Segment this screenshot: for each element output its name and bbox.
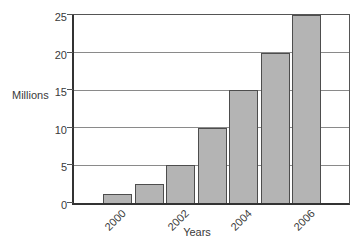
y-tick-mark-20 (67, 52, 73, 53)
bar-2002 (166, 165, 195, 203)
bar-2005 (261, 53, 290, 203)
y-tick-mark-10 (67, 127, 73, 128)
bar-2001 (135, 184, 164, 203)
y-tick-label-25: 25 (36, 11, 67, 24)
y-tick-label-5: 5 (36, 161, 67, 174)
bar-2000 (103, 194, 132, 203)
plot-area (72, 14, 350, 205)
bar-2006 (292, 15, 321, 203)
x-tick-label-2006: 2006 (291, 207, 317, 233)
x-tick-label-2004: 2004 (228, 207, 254, 233)
x-tick-label-2000: 2000 (102, 207, 128, 233)
y-tick-label-0: 0 (36, 199, 67, 212)
y-tick-mark-5 (67, 164, 73, 165)
bar-2003 (198, 128, 227, 203)
bar-2004 (229, 90, 258, 203)
y-tick-label-20: 20 (36, 49, 67, 62)
y-tick-mark-25 (67, 14, 73, 15)
y-tick-mark-0 (67, 202, 73, 203)
bar-chart: Millions Years 0510152025200020022004200… (0, 0, 364, 251)
y-tick-mark-15 (67, 89, 73, 90)
y-tick-label-15: 15 (36, 86, 67, 99)
y-tick-label-10: 10 (36, 124, 67, 137)
x-axis-title: Years (183, 226, 211, 238)
